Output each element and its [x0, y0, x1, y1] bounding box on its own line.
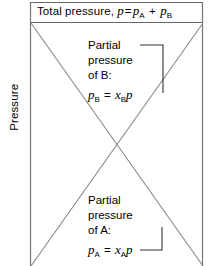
callout-a-line3: of A:	[88, 223, 133, 238]
callout-a-line2: pressure	[88, 208, 133, 223]
callout-partial-pressure-a: Partial pressure of A: pA = xAp	[88, 193, 133, 259]
formula-b-lhs-symbol: p	[88, 87, 95, 102]
callout-b-formula: pB = xBp	[88, 87, 133, 104]
callout-b-line1: Partial	[88, 38, 133, 53]
callout-partial-pressure-b: Partial pressure of B: pB = xBp	[88, 38, 133, 104]
callout-a-formula: pA = xAp	[88, 242, 133, 259]
raoults-law-diagram: Total pressure, p=pA + pB Pressure Parti…	[0, 0, 216, 266]
title-prefix: Total pressure,	[37, 5, 114, 17]
formula-a-rhs-factor: p	[126, 242, 133, 257]
leader-line-b	[140, 45, 163, 93]
formula-b-rhs-symbol: x	[115, 87, 121, 102]
title-plus: +	[148, 5, 157, 17]
formula-b-equals: =	[103, 89, 112, 101]
formula-b-lhs-sub: B	[95, 95, 100, 104]
formula-a-lhs-sub: A	[95, 250, 100, 259]
title-symbol-total: p	[117, 3, 124, 18]
title-sub-b: B	[167, 11, 172, 20]
callout-b-line3: of B:	[88, 68, 133, 83]
leader-line-a	[140, 227, 162, 250]
callout-b-line2: pressure	[88, 53, 133, 68]
title-equals: =	[124, 5, 133, 17]
callout-a-line1: Partial	[88, 193, 133, 208]
chart-title: Total pressure, p=pA + pB	[37, 4, 172, 21]
title-sub-a: A	[139, 11, 144, 20]
formula-a-equals: =	[103, 244, 112, 256]
formula-a-lhs-symbol: p	[88, 242, 95, 257]
formula-b-rhs-sub: B	[121, 95, 126, 104]
formula-b-rhs-factor: p	[126, 87, 133, 102]
title-symbol-b: p	[160, 3, 167, 18]
formula-a-rhs-sub: A	[121, 250, 126, 259]
y-axis-label: Pressure	[7, 72, 22, 142]
formula-a-rhs-symbol: x	[115, 242, 121, 257]
